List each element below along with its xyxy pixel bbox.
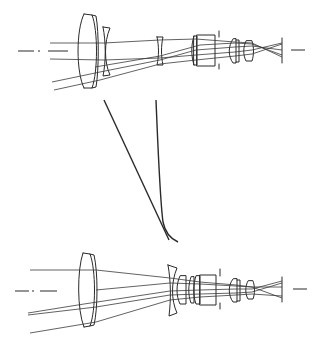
rear-lens-group-bottom (229, 279, 254, 302)
zoom-movement-curves (104, 100, 178, 242)
bottom-lens-configuration (15, 253, 307, 333)
front-lens-group-bottom (79, 253, 97, 327)
variator-lens (103, 27, 110, 76)
front-lens-group (78, 14, 98, 88)
ray-trace-bottom (28, 270, 282, 333)
ray-trace (50, 39, 282, 90)
top-lens-configuration (18, 14, 305, 90)
lens-diagram (0, 0, 319, 348)
